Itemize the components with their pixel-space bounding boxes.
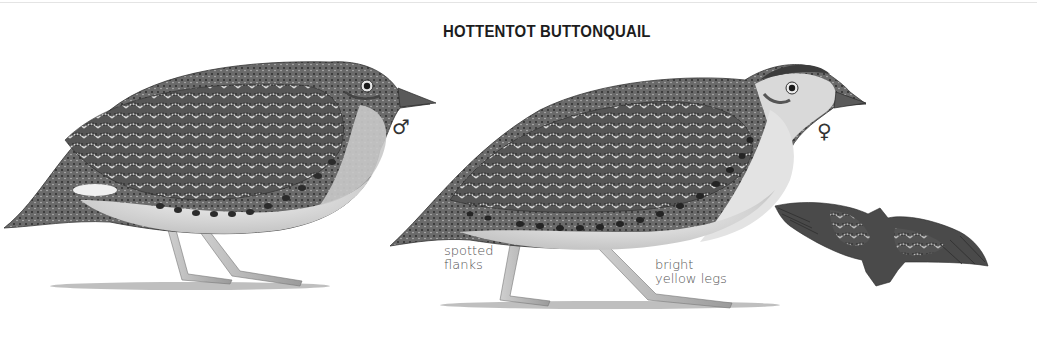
female-wing xyxy=(450,102,752,213)
annotation-spotted-flanks: spotted flanks xyxy=(444,244,493,272)
male-vent xyxy=(73,184,117,196)
plate-illustration xyxy=(0,0,1037,343)
flight-bird-figure xyxy=(775,202,988,286)
male-symbol-icon: ♂ xyxy=(392,117,410,137)
annotation-line: spotted xyxy=(444,244,493,258)
flight-silhouette xyxy=(775,202,988,286)
annotation-yellow-legs: bright yellow legs xyxy=(655,258,727,286)
female-bird-figure xyxy=(390,65,866,309)
female-eye xyxy=(789,85,795,91)
male-eye xyxy=(364,83,370,89)
annotation-line: flanks xyxy=(444,258,493,272)
male-bird-figure xyxy=(4,62,436,290)
female-leg-back xyxy=(500,245,550,306)
female-symbol-icon: ♀ xyxy=(817,121,832,141)
annotation-line: yellow legs xyxy=(655,272,727,286)
annotation-line: bright xyxy=(655,258,727,272)
